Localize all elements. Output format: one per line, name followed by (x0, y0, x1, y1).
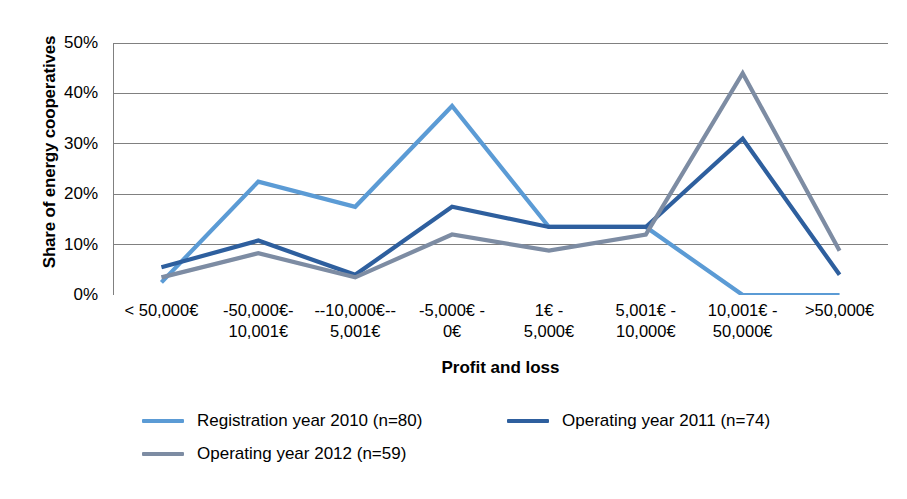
x-tick-label: -5,000€ - 0€ (400, 300, 504, 342)
x-tick-label: 10,001€ - 50,000€ (691, 300, 795, 342)
legend-line-swatch-icon (142, 419, 184, 423)
legend-label: Operating year 2012 (n=59) (197, 444, 406, 464)
legend-label: Registration year 2010 (n=80) (197, 411, 422, 431)
legend-item[interactable]: Operating year 2011 (n=74) (507, 411, 867, 431)
y-tick-label: 50% (36, 34, 98, 51)
x-tick-label: 1€ - 5,000€ (497, 300, 601, 342)
legend-item[interactable]: Registration year 2010 (n=80) (142, 411, 507, 431)
x-axis-title: Profit and loss (113, 358, 888, 378)
x-tick-label: < 50,000€ (109, 300, 213, 321)
plot-area (113, 43, 888, 295)
chart-legend: Registration year 2010 (n=80)Operating y… (142, 404, 902, 470)
series-line-2 (161, 73, 839, 277)
y-axis-tick-labels: 0%10%20%30%40%50% (36, 0, 98, 499)
y-tick-label: 10% (36, 236, 98, 253)
series-line-0 (161, 106, 839, 295)
legend-row: Registration year 2010 (n=80)Operating y… (142, 404, 902, 437)
chart-figure: Share of energy cooperatives 0%10%20%30%… (0, 0, 907, 499)
legend-item[interactable]: Operating year 2012 (n=59) (142, 444, 507, 464)
y-tick-label: 0% (36, 286, 98, 303)
x-tick-label: >50,000€ (788, 300, 892, 321)
legend-label: Operating year 2011 (n=74) (562, 411, 770, 431)
x-tick-label: -50,000€- 10,001€ (206, 300, 310, 342)
x-tick-label: 5,001€ - 10,000€ (594, 300, 698, 342)
y-tick-label: 20% (36, 185, 98, 202)
x-axis-tick-labels: < 50,000€-50,000€- 10,001€--10,000€-- 5,… (113, 300, 888, 352)
legend-row: Operating year 2012 (n=59) (142, 437, 902, 470)
x-tick-label: --10,000€-- 5,001€ (303, 300, 407, 342)
plot-svg (113, 43, 888, 295)
y-tick-label: 30% (36, 135, 98, 152)
y-tick-label: 40% (36, 84, 98, 101)
legend-line-swatch-icon (507, 419, 549, 423)
legend-line-swatch-icon (142, 452, 184, 456)
